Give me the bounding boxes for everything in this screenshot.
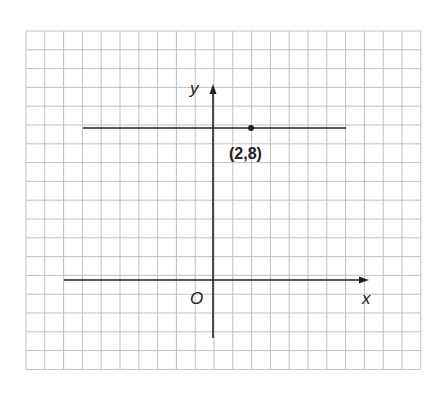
- grid: [26, 31, 421, 369]
- coordinate-plane: (2,8) y x O: [0, 0, 439, 397]
- x-axis-label: x: [361, 289, 371, 308]
- point-marker: [248, 125, 254, 131]
- y-axis-label: y: [189, 79, 200, 98]
- y-axis-arrow-icon: [210, 84, 217, 94]
- point-label: (2,8): [229, 145, 262, 162]
- origin-label: O: [190, 289, 203, 308]
